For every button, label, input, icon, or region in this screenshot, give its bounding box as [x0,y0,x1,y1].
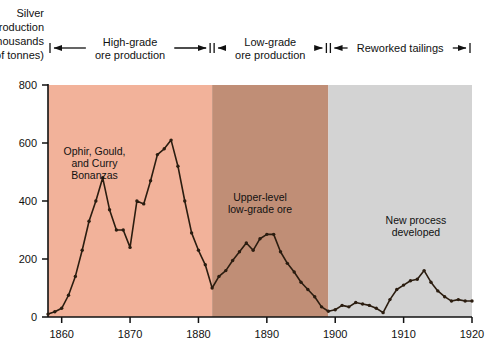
y-tick-label: 0 [31,311,37,323]
data-point [128,246,131,249]
data-point [122,228,125,231]
data-point [388,298,391,301]
y-axis-title-line-4: of tonnes) [0,49,44,61]
y-axis-ticks: 0200400600800 [19,79,48,323]
low-grade-band-label-line-1: Low-grade [244,36,296,48]
data-point [53,310,56,313]
x-tick-label: 1860 [49,328,73,340]
silver-production-line-chart: Silver production (thousands of tonnes) … [0,0,486,355]
data-point [251,249,254,252]
data-point [245,241,248,244]
data-point [409,279,412,282]
data-point [334,308,337,311]
data-point [457,298,460,301]
data-point [46,312,49,315]
data-point [217,275,220,278]
high-grade-band-label-line-2: ore production [95,49,165,61]
data-point [149,179,152,182]
data-point [210,286,213,289]
y-tick-label: 800 [19,79,37,91]
x-tick-label: 1890 [255,328,279,340]
data-point [142,202,145,205]
new-process-annotation-line-2: developed [392,226,441,238]
data-point [231,259,234,262]
ophir-gould-curry-annotation-line-3: Bonanzas [71,169,118,181]
data-point [115,228,118,231]
low-grade-band-label-line-2: ore production [235,49,305,61]
reworked-tailings-band-label-line-1: Reworked tailings [357,42,444,54]
data-point [443,295,446,298]
data-point [327,310,330,313]
data-point [361,302,364,305]
x-tick-label: 1870 [118,328,142,340]
data-point [313,295,316,298]
data-point [286,262,289,265]
new-process-annotation-line-1: New process [386,214,447,226]
x-tick-label: 1920 [460,328,484,340]
data-point [299,281,302,284]
data-point [265,233,268,236]
data-point [463,299,466,302]
reworked-tailings-band [328,85,472,317]
data-point [306,288,309,291]
data-point [87,220,90,223]
data-point [169,138,172,141]
y-tick-label: 400 [19,195,37,207]
era-span-headers: High-gradeore productionLow-gradeore pro… [50,36,470,61]
data-point [258,237,261,240]
y-axis-title: Silver production (thousands of tonnes) [0,7,44,61]
data-point [272,233,275,236]
data-point [320,305,323,308]
y-axis-title-line-3: (thousands [0,35,44,47]
upper-level-low-grade-annotation: Upper-levellow-grade ore [228,191,292,215]
data-point [416,278,419,281]
x-tick-label: 1880 [186,328,210,340]
data-point [436,289,439,292]
data-point [238,250,241,253]
y-tick-label: 600 [19,137,37,149]
ophir-gould-curry-annotation: Ophir, Gould,and CurryBonanzas [64,145,126,181]
y-axis-title-line-1: Silver [16,7,44,19]
data-point [450,299,453,302]
data-point [67,294,70,297]
data-point [354,301,357,304]
high-grade-band-header: High-gradeore production [50,36,210,61]
y-axis-title-line-2: production [0,21,44,33]
chart-container: Silver production (thousands of tonnes) … [0,0,486,355]
data-point [163,147,166,150]
data-point [74,275,77,278]
data-point [368,304,371,307]
data-point [422,269,425,272]
x-tick-label: 1900 [323,328,347,340]
data-point [279,250,282,253]
data-point [176,165,179,168]
high-grade-band-label-line-1: High-grade [103,36,157,48]
y-tick-label: 200 [19,253,37,265]
ophir-gould-curry-annotation-line-1: Ophir, Gould, [64,145,126,157]
data-point [156,153,159,156]
data-point [395,288,398,291]
reworked-tailings-band-header: Reworked tailings [330,42,470,54]
ophir-gould-curry-annotation-line-2: and Curry [71,157,118,169]
data-point [470,299,473,302]
data-point [94,199,97,202]
data-point [347,305,350,308]
data-point [197,249,200,252]
x-tick-label: 1910 [391,328,415,340]
low-grade-band-header: Low-gradeore production [214,36,326,61]
data-point [135,199,138,202]
data-point [190,231,193,234]
new-process-annotation: New processdeveloped [386,214,447,238]
data-point [292,270,295,273]
data-point [375,307,378,310]
data-point [60,307,63,310]
data-point [224,269,227,272]
data-point [381,311,384,314]
x-axis-ticks: 1860187018801890190019101920 [49,317,484,340]
upper-level-low-grade-annotation-line-1: Upper-level [233,191,287,203]
data-point [80,249,83,252]
data-point [183,199,186,202]
data-point [429,281,432,284]
upper-level-low-grade-annotation-line-2: low-grade ore [228,203,292,215]
data-point [108,208,111,211]
